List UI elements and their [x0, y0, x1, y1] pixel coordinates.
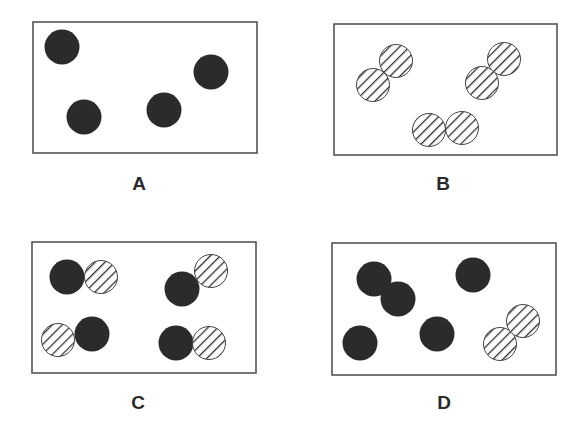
panel-label: A — [132, 173, 146, 194]
hatched-particle-icon — [193, 327, 226, 360]
panel-label: B — [436, 173, 450, 194]
solid-particle-icon — [50, 260, 85, 295]
hatched-particle-icon — [42, 324, 75, 357]
solid-particle-icon — [165, 272, 200, 307]
hatched-particle-icon — [488, 43, 521, 76]
hatched-particle-icon — [507, 305, 540, 338]
solid-particle-icon — [159, 326, 194, 361]
hatched-particle-icon — [195, 255, 228, 288]
solid-particle-icon — [75, 317, 110, 352]
solid-particle-icon — [420, 317, 455, 352]
solid-particle-icon — [194, 55, 229, 90]
solid-particle-icon — [456, 258, 491, 293]
panel-label: C — [131, 392, 145, 413]
solid-particle-icon — [343, 326, 378, 361]
hatched-particle-icon — [446, 112, 479, 145]
panel-d: D — [332, 243, 556, 413]
solid-particle-icon — [381, 282, 416, 317]
particle-diagram: ABCD — [0, 0, 585, 423]
panel-b: B — [334, 24, 557, 194]
hatched-particle-icon — [85, 261, 118, 294]
solid-particle-icon — [147, 93, 182, 128]
solid-particle-icon — [67, 100, 102, 135]
hatched-particle-icon — [413, 114, 446, 147]
panel-a: A — [33, 22, 257, 194]
hatched-particle-icon — [380, 45, 413, 78]
panel-label: D — [437, 392, 451, 413]
solid-particle-icon — [45, 30, 80, 65]
panel-c: C — [32, 242, 256, 413]
